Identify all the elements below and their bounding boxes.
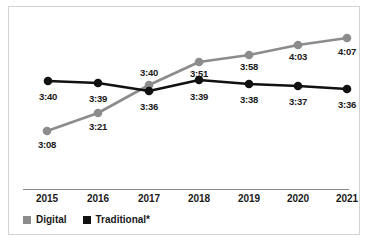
chart-legend: DigitalTraditional*	[23, 215, 150, 225]
legend-label: Digital	[36, 215, 67, 225]
x-axis-line	[23, 189, 349, 190]
data-point-marker	[44, 77, 53, 86]
data-point-marker	[294, 41, 303, 50]
chart-frame: 3:083:213:403:513:584:034:073:403:393:36…	[8, 6, 360, 235]
data-point-label: 3:21	[89, 122, 107, 132]
x-axis-tick-2018: 2018	[188, 194, 210, 204]
legend-swatch-icon	[83, 216, 91, 224]
data-point-label: 3:36	[140, 102, 158, 112]
legend-label: Traditional*	[96, 215, 150, 225]
data-point-label: 3:51	[190, 69, 208, 79]
data-point-label: 3:37	[289, 97, 307, 107]
data-point-label: 3:40	[140, 68, 158, 78]
data-point-label: 3:58	[240, 62, 258, 72]
data-point-marker	[245, 80, 254, 89]
legend-item[interactable]: Traditional*	[83, 215, 150, 225]
legend-item[interactable]: Digital	[23, 215, 67, 225]
data-point-label: 4:03	[289, 52, 307, 62]
data-point-marker	[145, 87, 154, 96]
data-point-marker	[94, 109, 103, 118]
data-point-label: 3:40	[39, 92, 57, 102]
x-axis-tick-2016: 2016	[87, 194, 109, 204]
x-axis-tick-2017: 2017	[138, 194, 160, 204]
data-point-label: 3:08	[38, 140, 56, 150]
x-axis-tick-2021: 2021	[336, 194, 358, 204]
plot-area: 3:083:213:403:513:584:034:073:403:393:36…	[9, 7, 361, 236]
data-point-label: 4:07	[338, 47, 356, 57]
data-point-marker	[343, 34, 352, 43]
data-point-marker	[245, 51, 254, 60]
data-point-label: 3:38	[240, 95, 258, 105]
data-point-marker	[343, 85, 352, 94]
data-point-marker	[294, 82, 303, 91]
x-axis-tick-2015: 2015	[36, 194, 58, 204]
x-axis-tick-2019: 2019	[238, 194, 260, 204]
data-point-label: 3:36	[338, 100, 356, 110]
data-point-marker	[94, 79, 103, 88]
legend-swatch-icon	[23, 216, 31, 224]
data-point-label: 3:39	[190, 92, 208, 102]
data-point-marker	[43, 127, 52, 136]
x-axis-tick-2020: 2020	[287, 194, 309, 204]
data-point-label: 3:39	[89, 94, 107, 104]
data-point-marker	[195, 58, 204, 67]
